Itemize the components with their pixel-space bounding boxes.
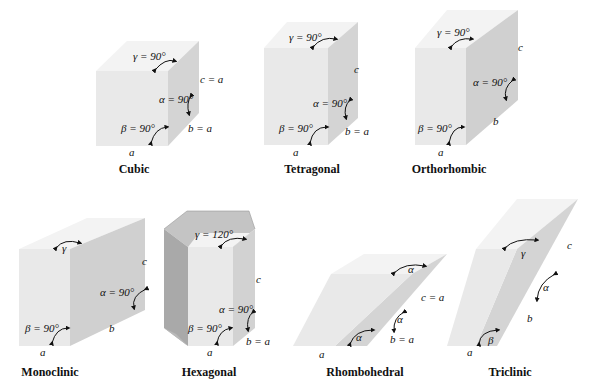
cubic-alpha-label: α = 90° <box>159 93 194 105</box>
rhombohedral-gamma-label: α <box>408 263 414 275</box>
monoclinic-alpha-label: α = 90° <box>100 286 135 298</box>
rhombohedral-alpha-label: α <box>397 313 403 325</box>
hexagonal-alpha-label: α = 90° <box>219 303 254 315</box>
orthorhombic-title: Orthorhombic <box>412 162 487 176</box>
triclinic-alpha-label: α <box>543 281 549 293</box>
triclinic-c-label: c <box>567 239 572 251</box>
monoclinic-beta-label: β = 90° <box>24 322 59 334</box>
cubic-b-label: b = a <box>188 122 212 134</box>
hexagonal-a-label: a <box>207 346 213 358</box>
monoclinic-title: Monoclinic <box>21 365 79 379</box>
triclinic-a-label: a <box>467 346 473 358</box>
tetragonal-title: Tetragonal <box>284 162 340 176</box>
cubic-c-label: c = a <box>200 73 224 85</box>
rhombohedral-cell: α α α c = a b = a a Rhombohedral <box>293 254 447 379</box>
orthorhombic-alpha-label: α = 90° <box>473 76 508 88</box>
hexagonal-gamma-label: γ = 120° <box>195 228 234 240</box>
monoclinic-a-label: a <box>40 346 46 358</box>
orthorhombic-b-label: b <box>493 115 499 127</box>
orthorhombic-cell: γ = 90° α = 90° β = 90° c b a Orthorhomb… <box>412 10 523 176</box>
tetragonal-c-label: c <box>354 63 359 75</box>
tetragonal-gamma-label: γ = 90° <box>289 31 322 43</box>
rhombohedral-title: Rhombohedral <box>326 365 404 379</box>
orthorhombic-gamma-label: γ = 90° <box>437 26 470 38</box>
rhombohedral-c-label: c = a <box>421 291 445 303</box>
hexagonal-c-label: c <box>256 273 261 285</box>
rhombohedral-beta-label: α <box>356 331 362 343</box>
crystal-systems-diagram: γ = 90° α = 90° β = 90° c = a b = a a Cu… <box>0 0 592 385</box>
orthorhombic-c-label: c <box>518 41 523 53</box>
cubic-gamma-label: γ = 90° <box>133 50 166 62</box>
hexagonal-beta-label: β = 90° <box>187 322 222 334</box>
tetragonal-alpha-label: α = 90° <box>313 97 348 109</box>
cubic-a-label: a <box>129 146 135 158</box>
orthorhombic-a-label: a <box>438 146 444 158</box>
triclinic-gamma-label: γ <box>521 247 526 259</box>
tetragonal-a-label: a <box>293 146 299 158</box>
triclinic-title: Triclinic <box>488 365 532 379</box>
triclinic-b-label: b <box>527 312 533 324</box>
cubic-title: Cubic <box>119 162 150 176</box>
triclinic-cell: γ α β c b a Triclinic <box>447 199 578 379</box>
monoclinic-b-label: b <box>109 322 115 334</box>
hexagonal-title: Hexagonal <box>182 365 237 379</box>
triclinic-beta-label: β <box>487 334 494 346</box>
hexagonal-cell: γ = 120° α = 90° β = 90° c b = a a Hexag… <box>164 211 270 379</box>
orthorhombic-beta-label: β = 90° <box>417 122 452 134</box>
cubic-cell: γ = 90° α = 90° β = 90° c = a b = a a Cu… <box>96 41 224 176</box>
monoclinic-gamma-label: γ <box>62 242 67 254</box>
rhombohedral-a-label: a <box>319 348 325 360</box>
hexagonal-b-label: b = a <box>246 335 270 347</box>
monoclinic-c-label: c <box>142 255 147 267</box>
tetragonal-cell: γ = 90° α = 90° β = 90° c b = a a Tetrag… <box>264 22 369 176</box>
monoclinic-cell: γ α = 90° β = 90° c b a Monoclinic <box>19 218 147 379</box>
rhombohedral-b-label: b = a <box>390 333 414 345</box>
tetragonal-beta-label: β = 90° <box>278 122 313 134</box>
tetragonal-b-label: b = a <box>345 125 369 137</box>
cubic-beta-label: β = 90° <box>120 122 155 134</box>
